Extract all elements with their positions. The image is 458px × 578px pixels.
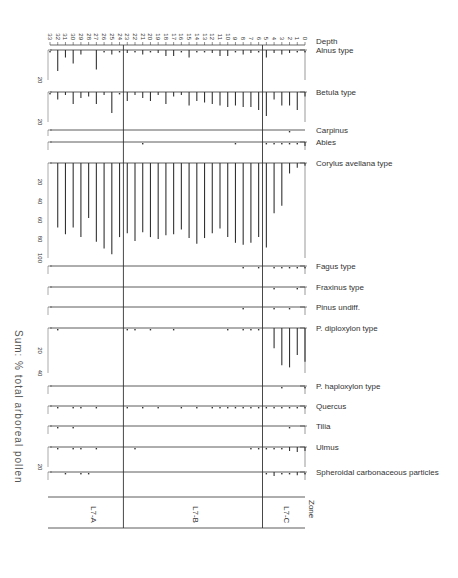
rare-taxon-dot bbox=[134, 51, 135, 52]
rare-taxon-dot bbox=[235, 407, 236, 408]
rare-taxon-dot bbox=[281, 143, 282, 144]
depth-tick-label: 15 bbox=[186, 33, 192, 40]
taxon-label-p-diploxylon-type: P. diploxylon type bbox=[316, 324, 378, 333]
rare-taxon-dot bbox=[304, 407, 305, 408]
depth-tick-label: 4 bbox=[271, 37, 277, 41]
rare-taxon-dot bbox=[258, 329, 259, 330]
taxon-label-betula-type: Betula type bbox=[316, 88, 357, 97]
rare-taxon-dot bbox=[273, 143, 274, 144]
depth-tick-label: 0 bbox=[302, 37, 308, 41]
rare-taxon-dot bbox=[266, 448, 267, 449]
rare-taxon-dot bbox=[273, 448, 274, 449]
rare-taxon-dot bbox=[127, 329, 128, 330]
rare-taxon-dot bbox=[235, 51, 236, 52]
rare-taxon-dot bbox=[80, 448, 81, 449]
rare-taxon-dot bbox=[235, 143, 236, 144]
rare-taxon-dot bbox=[281, 473, 282, 474]
rare-taxon-dot bbox=[297, 51, 298, 52]
depth-tick-label: 3 bbox=[279, 37, 285, 41]
depth-tick-label: 5 bbox=[263, 37, 269, 41]
rare-taxon-dot bbox=[289, 131, 290, 132]
depth-tick-label: 30 bbox=[70, 33, 76, 40]
taxon-label-pinus-undiff: Pinus undiff. bbox=[316, 303, 360, 312]
rare-taxon-dot bbox=[242, 407, 243, 408]
depth-tick-label: 12 bbox=[209, 33, 215, 40]
depth-tick-label: 8 bbox=[240, 37, 246, 41]
rare-taxon-dot bbox=[297, 407, 298, 408]
depth-tick-label: 1 bbox=[294, 37, 300, 41]
rare-taxon-dot bbox=[242, 267, 243, 268]
rare-taxon-dot bbox=[281, 448, 282, 449]
rare-taxon-dot bbox=[273, 288, 274, 289]
depth-tick-label: 26 bbox=[101, 33, 107, 40]
rare-taxon-dot bbox=[304, 387, 305, 388]
rare-taxon-dot bbox=[196, 407, 197, 408]
depth-tick-label: 28 bbox=[86, 33, 92, 40]
rare-taxon-dot bbox=[57, 329, 58, 330]
pollen-diagram: 3332313029282726252423222120191817161514… bbox=[0, 0, 458, 578]
rare-taxon-dot bbox=[242, 329, 243, 330]
rare-taxon-dot bbox=[127, 407, 128, 408]
rare-taxon-dot bbox=[297, 143, 298, 144]
zone-label-l7-c: L7-C bbox=[282, 506, 291, 524]
rare-taxon-dot bbox=[96, 407, 97, 408]
rare-taxon-dot bbox=[304, 473, 305, 474]
depth-tick-label: 6 bbox=[256, 37, 262, 41]
rare-taxon-dot bbox=[281, 267, 282, 268]
taxon-label-p-haploxylon-type: P. haploxylon type bbox=[316, 382, 381, 391]
scale-tick-label: 80 bbox=[37, 236, 43, 243]
rare-taxon-dot bbox=[266, 473, 267, 474]
rare-taxon-dot bbox=[258, 51, 259, 52]
rare-taxon-dot bbox=[242, 308, 243, 309]
depth-tick-label: 19 bbox=[155, 33, 161, 40]
rare-taxon-dot bbox=[289, 267, 290, 268]
rare-taxon-dot bbox=[297, 288, 298, 289]
depth-tick-label: 25 bbox=[109, 33, 115, 40]
rare-taxon-dot bbox=[57, 407, 58, 408]
rare-taxon-dot bbox=[212, 407, 213, 408]
rare-taxon-dot bbox=[57, 448, 58, 449]
zone-label-l7-b: L7-B bbox=[191, 506, 200, 523]
scale-tick-label: 20 bbox=[37, 179, 43, 186]
rare-taxon-dot bbox=[142, 407, 143, 408]
rare-taxon-dot bbox=[150, 51, 151, 52]
taxon-label-ulmus: Ulmus bbox=[316, 443, 339, 452]
scale-tick-label: 20 bbox=[37, 464, 43, 471]
rare-taxon-dot bbox=[297, 267, 298, 268]
depth-tick-label: 7 bbox=[248, 37, 254, 41]
depth-tick-label: 32 bbox=[55, 33, 61, 40]
rare-taxon-dot bbox=[157, 407, 158, 408]
depth-tick-label: 31 bbox=[62, 33, 68, 40]
scale-tick-label: 40 bbox=[37, 370, 43, 377]
taxon-label-tilia: Tilia bbox=[316, 422, 331, 431]
depth-tick-label: 10 bbox=[225, 33, 231, 40]
rare-taxon-dot bbox=[181, 51, 182, 52]
depth-tick-label: 23 bbox=[124, 33, 130, 40]
rare-taxon-dot bbox=[289, 308, 290, 309]
rare-taxon-dot bbox=[134, 329, 135, 330]
rare-taxon-dot bbox=[289, 143, 290, 144]
scale-tick-label: 20 bbox=[37, 347, 43, 354]
depth-tick-label: 2 bbox=[287, 37, 293, 41]
rare-taxon-dot bbox=[49, 93, 50, 94]
rare-taxon-dot bbox=[181, 407, 182, 408]
rare-taxon-dot bbox=[281, 407, 282, 408]
depth-tick-label: 16 bbox=[178, 33, 184, 40]
rare-taxon-dot bbox=[289, 407, 290, 408]
depth-tick-label: 18 bbox=[163, 33, 169, 40]
rare-taxon-dot bbox=[266, 143, 267, 144]
rare-taxon-dot bbox=[96, 448, 97, 449]
sum-axis-label: Sum: % total arboreal pollen bbox=[13, 330, 24, 484]
rare-taxon-dot bbox=[72, 427, 73, 428]
zone-axis-label: Zone bbox=[307, 500, 316, 519]
rare-taxon-dot bbox=[72, 407, 73, 408]
rare-taxon-dot bbox=[142, 143, 143, 144]
taxon-label-corylus-avellana-type: Corylus avellana type bbox=[316, 159, 393, 168]
rare-taxon-dot bbox=[266, 407, 267, 408]
rare-taxon-dot bbox=[258, 267, 259, 268]
depth-tick-label: 17 bbox=[171, 33, 177, 40]
depth-tick-label: 20 bbox=[147, 33, 153, 40]
taxon-label-fagus-type: Fagus type bbox=[316, 262, 356, 271]
rare-taxon-dot bbox=[119, 51, 120, 52]
scale-tick-label: 20 bbox=[37, 119, 43, 126]
